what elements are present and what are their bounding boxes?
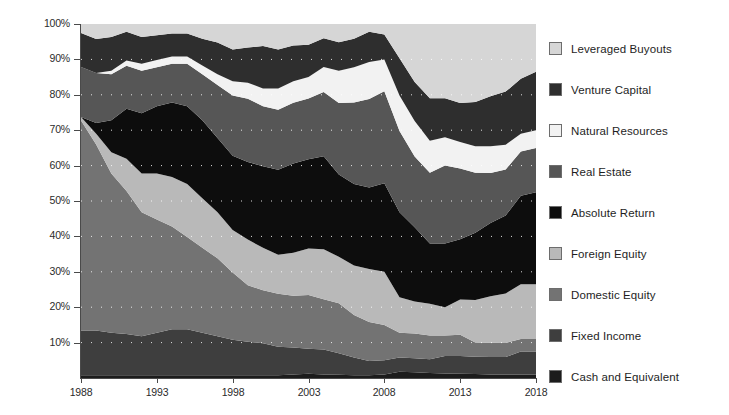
x-axis-tick-label: 2008 bbox=[373, 386, 396, 398]
y-axis-tick bbox=[74, 59, 81, 60]
y-axis-tick bbox=[74, 272, 81, 273]
x-axis-tick bbox=[81, 378, 82, 383]
x-axis-tick-label: 2018 bbox=[525, 386, 548, 398]
legend-item[interactable]: Domestic Equity bbox=[549, 274, 727, 315]
legend-item[interactable]: Real Estate bbox=[549, 151, 727, 192]
y-axis-tick bbox=[74, 24, 81, 25]
y-axis-tick-label: 60% bbox=[8, 159, 70, 171]
y-axis-labels: 10%20%30%40%50%60%70%80%90%100% bbox=[0, 0, 70, 415]
legend-item[interactable]: Absolute Return bbox=[549, 192, 727, 233]
y-axis-tick bbox=[74, 130, 81, 131]
y-axis-tick-label: 30% bbox=[8, 265, 70, 277]
legend-item-label: Fixed Income bbox=[571, 330, 641, 342]
x-axis-tick bbox=[536, 378, 537, 383]
legend-item-label: Leveraged Buyouts bbox=[571, 43, 672, 55]
legend-swatch-icon bbox=[549, 247, 562, 260]
legend-item-label: Foreign Equity bbox=[571, 248, 647, 260]
legend-swatch-icon bbox=[549, 370, 562, 383]
legend-swatch-icon bbox=[549, 83, 562, 96]
legend-swatch-icon bbox=[549, 206, 562, 219]
x-axis-tick-label: 1988 bbox=[70, 386, 93, 398]
legend-swatch-icon bbox=[549, 42, 562, 55]
y-axis-tick-label: 50% bbox=[8, 194, 70, 206]
legend-item-label: Cash and Equivalent bbox=[571, 371, 679, 383]
y-axis-tick-label: 90% bbox=[8, 52, 70, 64]
legend-item[interactable]: Fixed Income bbox=[549, 315, 727, 356]
y-axis-tick-label: 70% bbox=[8, 123, 70, 135]
y-axis-tick bbox=[74, 307, 81, 308]
plot-svg bbox=[81, 24, 536, 378]
y-axis-tick-label: 100% bbox=[8, 17, 70, 29]
y-axis-tick-label: 40% bbox=[8, 229, 70, 241]
y-axis-tick-label: 20% bbox=[8, 300, 70, 312]
y-axis-tick bbox=[74, 166, 81, 167]
y-axis-tick-label: 10% bbox=[8, 336, 70, 348]
legend-swatch-icon bbox=[549, 288, 562, 301]
x-axis-tick bbox=[233, 378, 234, 383]
y-axis-tick bbox=[74, 236, 81, 237]
x-axis-tick-label: 2013 bbox=[449, 386, 472, 398]
x-axis-tick bbox=[309, 378, 310, 383]
chart-legend: Leveraged BuyoutsVenture CapitalNatural … bbox=[549, 28, 727, 397]
legend-item-label: Venture Capital bbox=[571, 84, 651, 96]
y-axis-tick bbox=[74, 95, 81, 96]
y-axis-tick-label: 80% bbox=[8, 88, 70, 100]
legend-item[interactable]: Foreign Equity bbox=[549, 233, 727, 274]
y-axis-tick bbox=[74, 343, 81, 344]
x-axis-tick bbox=[157, 378, 158, 383]
x-axis-tick bbox=[460, 378, 461, 383]
x-axis-tick-label: 1998 bbox=[222, 386, 245, 398]
x-axis-tick-label: 1993 bbox=[146, 386, 169, 398]
legend-item-label: Natural Resources bbox=[571, 125, 668, 137]
legend-item[interactable]: Natural Resources bbox=[549, 110, 727, 151]
plot-area bbox=[81, 24, 536, 378]
legend-item-label: Real Estate bbox=[571, 166, 632, 178]
legend-item[interactable]: Cash and Equivalent bbox=[549, 356, 727, 397]
legend-item[interactable]: Venture Capital bbox=[549, 69, 727, 110]
y-axis-tick bbox=[74, 201, 81, 202]
stacked-area-chart: 10%20%30%40%50%60%70%80%90%100% 19881993… bbox=[0, 0, 729, 415]
legend-item-label: Absolute Return bbox=[571, 207, 655, 219]
legend-swatch-icon bbox=[549, 329, 562, 342]
legend-swatch-icon bbox=[549, 124, 562, 137]
x-axis-tick bbox=[384, 378, 385, 383]
legend-swatch-icon bbox=[549, 165, 562, 178]
legend-item-label: Domestic Equity bbox=[571, 289, 656, 301]
legend-item[interactable]: Leveraged Buyouts bbox=[549, 28, 727, 69]
x-axis-tick-label: 2003 bbox=[298, 386, 321, 398]
